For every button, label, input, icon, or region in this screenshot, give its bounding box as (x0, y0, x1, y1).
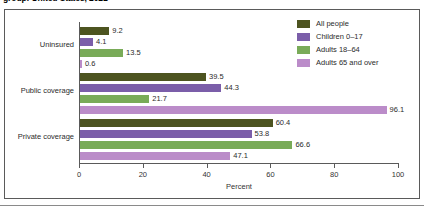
legend-label: All people (316, 18, 349, 30)
x-axis-tick-label: 100 (383, 170, 413, 179)
bar (80, 119, 273, 127)
legend-label: Children 0–17 (316, 31, 363, 43)
x-axis-tick-label: 40 (192, 170, 222, 179)
figure-root: group: United States, 2021 020406080100 … (0, 0, 424, 213)
x-axis-tick-label: 80 (319, 170, 349, 179)
bar-value-label: 39.5 (209, 73, 224, 81)
x-axis-tick (207, 164, 208, 168)
category-label: Private coverage (0, 132, 74, 141)
legend-swatch-icon (297, 46, 310, 54)
bar-value-label: 66.6 (295, 141, 310, 149)
bar (80, 73, 206, 81)
legend-label: Adults 65 and over (316, 57, 379, 69)
bar (80, 95, 149, 103)
bar-value-label: 9.2 (112, 27, 122, 35)
x-axis-tick-label: 60 (255, 170, 285, 179)
x-axis-line (79, 163, 399, 164)
figure-title: group: United States, 2021 (3, 0, 303, 3)
x-axis-tick (270, 164, 271, 168)
bar-value-label: 4.1 (96, 38, 106, 46)
legend-swatch-icon (297, 20, 310, 28)
bottom-rule (0, 205, 424, 206)
category-label: Uninsured (0, 40, 74, 49)
legend-label: Adults 18–64 (316, 44, 360, 56)
bar-value-label: 0.6 (85, 60, 95, 68)
bar (80, 49, 123, 57)
x-axis-tick (398, 164, 399, 168)
bar (80, 141, 292, 149)
legend-swatch-icon (297, 33, 310, 41)
bar-value-label: 47.1 (233, 152, 248, 160)
bar-value-label: 60.4 (276, 119, 291, 127)
bar (80, 152, 230, 160)
bar (80, 130, 252, 138)
x-axis-tick-label: 20 (128, 170, 158, 179)
bar (80, 106, 387, 114)
x-axis-tick (143, 164, 144, 168)
bar (80, 27, 109, 35)
bar (80, 60, 82, 68)
bar-value-label: 53.8 (255, 130, 270, 138)
category-label: Public coverage (0, 86, 74, 95)
bar-value-label: 96.1 (390, 106, 405, 114)
bar (80, 38, 93, 46)
legend-swatch-icon (297, 59, 310, 67)
x-axis-tick (334, 164, 335, 168)
x-axis-tick (79, 164, 80, 168)
bar-value-label: 13.5 (126, 49, 141, 57)
x-axis-label: Percent (79, 182, 399, 191)
bar (80, 84, 221, 92)
bar-value-label: 44.3 (224, 84, 239, 92)
x-axis-tick-label: 0 (64, 170, 94, 179)
bar-value-label: 21.7 (152, 95, 167, 103)
